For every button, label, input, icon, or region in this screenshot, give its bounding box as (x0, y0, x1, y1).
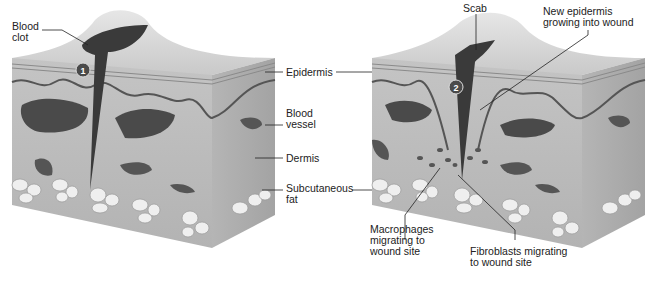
label-blood-clot: Blood clot (12, 21, 39, 43)
skin-block-panel-1 (12, 10, 275, 248)
label-epidermis: Epidermis (286, 67, 333, 78)
skin-diagram-canvas: 1 2 (0, 0, 657, 281)
label-subcutaneous-fat: Subcutaneous fat (286, 183, 353, 205)
label-macrophages: Macrophages migrating to wound site (370, 224, 434, 257)
label-blood-vessel: Blood vessel (286, 108, 316, 130)
label-dermis: Dermis (286, 153, 319, 164)
step-number-2: 2 (453, 83, 458, 93)
label-scab: Scab (463, 3, 487, 14)
skin-block-panel-2 (372, 13, 645, 248)
label-new-epidermis: New epidermis growing into wound (543, 6, 633, 28)
label-fibroblasts: Fibroblasts migrating to wound site (470, 246, 567, 268)
step-number-1: 1 (80, 66, 85, 76)
